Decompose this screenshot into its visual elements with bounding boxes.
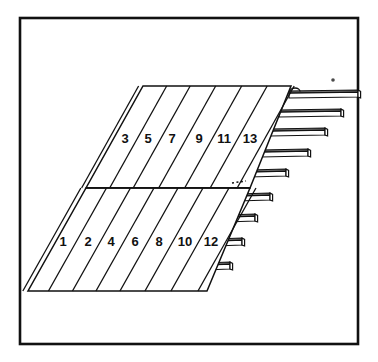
finger-end-cap-1	[358, 90, 361, 98]
finger-end-cap-5	[286, 169, 289, 177]
strip-label-11: 11	[217, 131, 231, 146]
speck-dot	[331, 78, 335, 82]
strip-label-13: 13	[243, 131, 257, 146]
strip-label-10: 10	[178, 234, 192, 249]
strip-label-3: 3	[121, 131, 128, 146]
finger-front-face-3	[270, 130, 325, 136]
finger-bar-3	[270, 128, 328, 136]
strip-label-4: 4	[107, 234, 115, 249]
strip-label-2: 2	[84, 234, 91, 249]
finger-end-cap-7	[255, 214, 258, 222]
strip-label-5: 5	[144, 131, 151, 146]
finger-end-cap-9	[230, 262, 233, 270]
finger-end-cap-3	[325, 128, 328, 136]
strip-label-12: 12	[204, 234, 218, 249]
finger-front-face-2	[279, 111, 341, 117]
finger-end-cap-2	[341, 109, 344, 117]
strip-label-7: 7	[168, 131, 175, 146]
finger-end-cap-4	[308, 149, 311, 157]
strip-label-8: 8	[155, 234, 162, 249]
strip-label-6: 6	[131, 234, 138, 249]
strip-label-1: 1	[59, 234, 66, 249]
scan-speck	[331, 78, 335, 82]
finger-front-face-4	[261, 151, 308, 157]
diagram-canvas: 35791113 124681012	[0, 0, 378, 362]
finger-end-cap-8	[242, 238, 245, 246]
finger-end-cap-6	[270, 193, 273, 201]
finger-bar-2	[279, 109, 344, 117]
figure-drawing: 35791113 124681012	[0, 0, 378, 362]
finger-bar-4	[261, 149, 311, 157]
strip-label-9: 9	[195, 131, 202, 146]
finger-front-face-1	[289, 92, 358, 98]
